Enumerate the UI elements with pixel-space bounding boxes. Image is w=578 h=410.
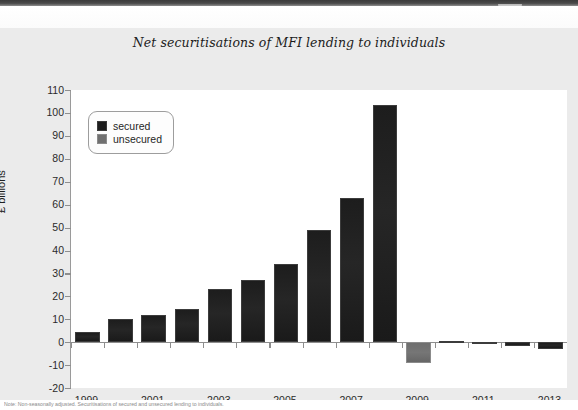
chart-footnote: Note: Non-seasonally adjusted. Securitis… xyxy=(4,401,424,407)
y-axis-tick xyxy=(65,182,71,183)
y-axis-tick-label: 20 xyxy=(34,291,64,302)
y-axis-tick xyxy=(65,136,71,137)
x-axis-tick xyxy=(104,342,105,348)
y-axis-tick-label: 40 xyxy=(34,245,64,256)
chart-panel: Net securitisations of MFI lending to in… xyxy=(0,28,578,400)
x-axis-tick xyxy=(170,342,171,348)
bar-secured-2004 xyxy=(241,280,266,342)
bar-secured-2000 xyxy=(108,319,133,342)
y-axis-tick-label: 50 xyxy=(34,222,64,233)
y-axis-labels: 1101009080706050403020100-10-20 xyxy=(32,90,64,388)
bar-secured-2007 xyxy=(340,198,365,342)
bar-secured-2003 xyxy=(208,289,233,342)
bar-unsecured-2009 xyxy=(406,342,431,363)
y-axis-tick xyxy=(65,273,71,274)
bar-secured-2013 xyxy=(538,342,563,349)
legend-label-secured: secured xyxy=(113,120,150,132)
bar-secured-2006 xyxy=(307,230,332,342)
chart-legend: secured unsecured xyxy=(88,111,174,154)
bar-secured-2012 xyxy=(505,342,530,345)
y-axis-tick-label: 70 xyxy=(34,176,64,187)
y-axis-tick-label: 0 xyxy=(34,337,64,348)
y-axis-tick xyxy=(65,251,71,252)
y-axis-tick-label: 30 xyxy=(34,268,64,279)
x-axis-tick xyxy=(336,342,337,348)
x-axis-tick xyxy=(435,342,436,348)
y-axis-tick-label: -20 xyxy=(34,383,64,394)
bar-secured-2001 xyxy=(141,315,166,343)
y-axis-tick-label: 110 xyxy=(34,85,64,96)
legend-swatch-unsecured-icon xyxy=(97,134,107,144)
bar-secured-2005 xyxy=(274,264,299,342)
y-axis-tick xyxy=(65,113,71,114)
y-axis-tick-label: 90 xyxy=(34,130,64,141)
legend-label-unsecured: unsecured xyxy=(113,133,162,145)
y-axis-tick xyxy=(65,159,71,160)
x-axis-tick xyxy=(71,342,72,348)
x-axis-tick xyxy=(369,342,370,348)
x-axis-tick xyxy=(303,342,304,348)
y-axis-tick-label: 100 xyxy=(34,107,64,118)
bar-secured-2010 xyxy=(439,341,464,343)
bar-secured-2011 xyxy=(472,342,497,344)
y-axis-title: £ billions xyxy=(0,170,7,213)
chart-title: Net securitisations of MFI lending to in… xyxy=(0,35,578,50)
y-axis-tick-label: 60 xyxy=(34,199,64,210)
y-axis-tick xyxy=(65,365,71,366)
y-axis-tick-label: -10 xyxy=(34,360,64,371)
window-header-spacer xyxy=(0,6,578,28)
bar-secured-2002 xyxy=(175,309,200,342)
y-axis-tick xyxy=(65,319,71,320)
bar-secured-1999 xyxy=(75,332,100,342)
y-axis-tick xyxy=(65,388,71,389)
y-axis-tick xyxy=(65,90,71,91)
bar-secured-2008 xyxy=(373,105,398,342)
y-axis-tick xyxy=(65,205,71,206)
y-axis-tick-label: 80 xyxy=(34,153,64,164)
x-axis-tick xyxy=(203,342,204,348)
y-axis-tick xyxy=(65,228,71,229)
x-axis-tick xyxy=(501,342,502,348)
x-axis-tick xyxy=(402,342,403,348)
y-axis-tick-label: 10 xyxy=(34,314,64,325)
legend-swatch-secured-icon xyxy=(97,121,107,131)
x-axis-tick xyxy=(534,342,535,348)
x-axis-tick xyxy=(269,342,270,348)
x-axis-tick xyxy=(236,342,237,348)
y-axis-tick xyxy=(65,296,71,297)
legend-item-unsecured: unsecured xyxy=(97,133,162,145)
x-axis-tick xyxy=(137,342,138,348)
x-axis-tick xyxy=(468,342,469,348)
legend-item-secured: secured xyxy=(97,120,162,132)
